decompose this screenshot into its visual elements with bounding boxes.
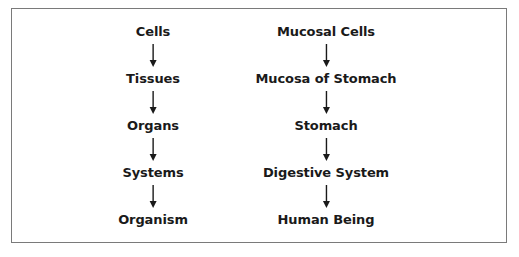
example-hierarchy-column: Mucosal Cells Mucosa of Stomach Stomach … — [255, 24, 396, 228]
node-digestive-system: Digestive System — [263, 165, 389, 181]
node-human-being: Human Being — [278, 212, 375, 228]
node-systems: Systems — [122, 165, 183, 181]
down-arrow-icon — [321, 87, 331, 118]
down-arrow-icon — [321, 181, 331, 212]
down-arrow-icon — [148, 181, 158, 212]
down-arrow-icon — [321, 40, 331, 71]
down-arrow-icon — [148, 40, 158, 71]
node-organs: Organs — [127, 118, 179, 134]
general-hierarchy-column: Cells Tissues Organs Systems Organism — [118, 24, 188, 228]
node-cells: Cells — [136, 24, 171, 40]
node-organism: Organism — [118, 212, 188, 228]
down-arrow-icon — [321, 134, 331, 165]
down-arrow-icon — [148, 134, 158, 165]
down-arrow-icon — [148, 87, 158, 118]
node-mucosal-cells: Mucosal Cells — [277, 24, 375, 40]
node-tissues: Tissues — [126, 71, 180, 87]
node-mucosa-of-stomach: Mucosa of Stomach — [255, 71, 396, 87]
node-stomach: Stomach — [294, 118, 357, 134]
